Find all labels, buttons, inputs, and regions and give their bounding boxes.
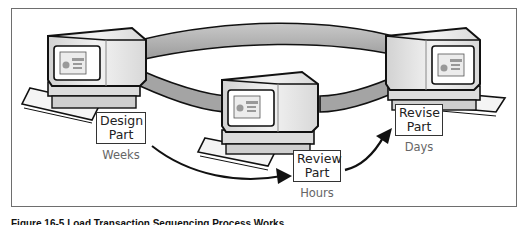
arrowhead-icon bbox=[376, 128, 392, 144]
node-label-revise: Revise Part bbox=[395, 104, 443, 136]
node-label-line2: Part bbox=[100, 128, 142, 142]
node-label-line1: Design bbox=[100, 114, 142, 128]
node-label-design: Design Part bbox=[96, 112, 146, 144]
figure-caption: Figure 16-5 Load Transaction Sequencing … bbox=[11, 218, 284, 225]
node-label-line1: Review bbox=[297, 152, 337, 166]
network-diagram bbox=[0, 0, 528, 225]
arrowhead-icon bbox=[276, 168, 292, 184]
node-label-line1: Revise bbox=[399, 106, 439, 120]
duration-label-design: Weeks bbox=[96, 148, 146, 162]
computer-revise bbox=[386, 28, 505, 116]
duration-label-review: Hours bbox=[293, 186, 341, 200]
computer-design bbox=[22, 28, 146, 123]
node-label-line2: Part bbox=[297, 166, 337, 180]
node-label-line2: Part bbox=[399, 120, 439, 134]
arrow-review-to-revise bbox=[345, 128, 392, 170]
duration-label-revise: Days bbox=[395, 140, 443, 154]
node-label-review: Review Part bbox=[293, 150, 341, 182]
